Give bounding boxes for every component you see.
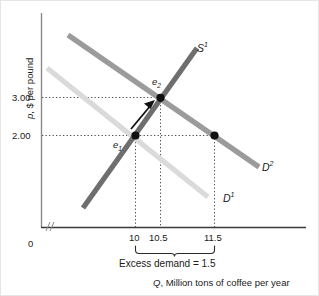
y-axis-title: p, $ per pound — [25, 58, 35, 119]
point-d2-at-2 — [210, 131, 218, 139]
origin-label: 0 — [28, 239, 33, 249]
curve-label-demand-1-sup: 1 — [231, 191, 235, 198]
point-label-e2-sub: 2 — [157, 82, 161, 89]
point-label-e1: e1 — [113, 140, 122, 152]
x-tick-label-10-5: 10.5 — [149, 233, 168, 243]
y-tick-label-2: 2.00 — [12, 131, 31, 141]
curve-demand-2 — [68, 35, 259, 167]
excess-demand-brace — [136, 246, 215, 257]
curve-label-demand-2-text: D — [262, 161, 270, 173]
x-tick-label-10: 10 — [129, 233, 140, 243]
point-e1 — [131, 131, 139, 139]
supply-demand-figure: p, $ per pound 3.00 2.00 0 10 10.5 11.5 … — [0, 0, 319, 296]
point-label-e2: e2 — [152, 77, 161, 89]
curve-label-demand-2: D2 — [262, 160, 274, 172]
x-axis-title: Q, Million tons of coffee per year — [153, 278, 290, 288]
chart-canvas — [1, 1, 319, 296]
curve-label-demand-2-sup: 2 — [270, 160, 274, 167]
curve-supply-1 — [83, 48, 197, 208]
curve-label-supply-1-sup: 1 — [204, 41, 208, 48]
curve-label-supply-1: S1 — [197, 41, 208, 53]
axis-break-icon — [46, 222, 54, 231]
curve-demand-1 — [47, 68, 208, 197]
curve-label-demand-1: D1 — [223, 191, 235, 203]
x-tick-label-11-5: 11.5 — [204, 233, 222, 243]
point-label-e1-sub: 1 — [118, 145, 122, 152]
excess-demand-label: Excess demand = 1.5 — [119, 259, 215, 269]
curve-label-supply-1-text: S — [197, 42, 204, 54]
point-e2 — [156, 94, 164, 102]
y-tick-label-3: 3.00 — [12, 93, 31, 103]
curve-label-demand-1-text: D — [223, 192, 231, 204]
